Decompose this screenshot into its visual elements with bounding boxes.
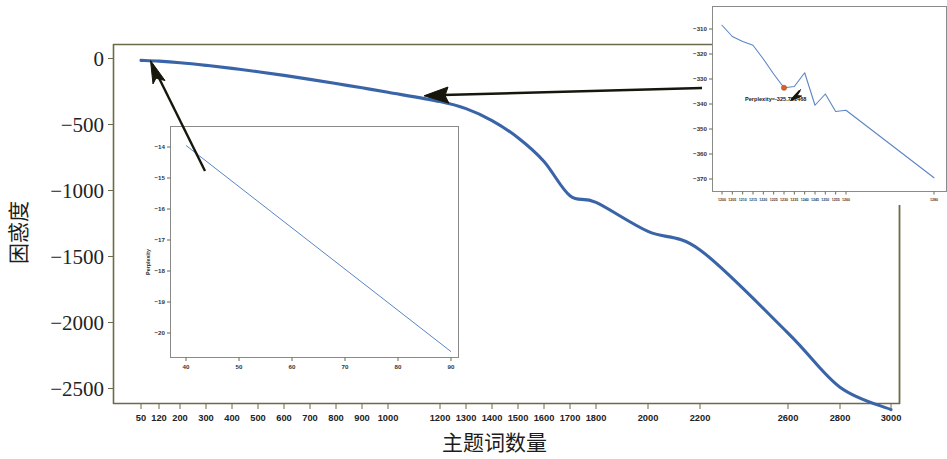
inset-right-y-tick-labels: −310 −320 −330 −340 −350 −360 −370 — [693, 25, 707, 182]
inset-ytick-label: −370 — [693, 175, 707, 182]
callout-arrow-right-icon — [424, 87, 702, 103]
xtick-label: 700 — [302, 413, 318, 423]
inset-left-frame — [171, 127, 459, 358]
y-axis-title: 困惑度 — [7, 201, 31, 264]
inset-right-annotation-marker — [781, 85, 786, 90]
main-x-tick-labels: 50 120 200 300 400 500 600 700 800 900 1… — [136, 413, 902, 423]
inset-xtick-label: 1280 — [930, 198, 938, 202]
xtick-label: 3000 — [881, 413, 902, 423]
xtick-label: 2800 — [830, 413, 851, 423]
perplexity-figure: 0 −500 −1000 −1500 −2000 −2500 困惑度 — [0, 0, 947, 459]
inset-xtick-label: 40 — [183, 363, 190, 370]
inset-right: −310 −320 −330 −340 −350 −360 −370 12001… — [693, 7, 946, 203]
xtick-label: 1500 — [508, 413, 529, 423]
main-y-tick-labels: 0 −500 −1000 −1500 −2000 −2500 — [50, 47, 104, 401]
inset-xtick-label: 1240 — [801, 198, 809, 202]
xtick-label: 200 — [172, 413, 188, 423]
xtick-label: 400 — [224, 413, 240, 423]
inset-ytick-label: −350 — [693, 125, 707, 132]
inset-left-x-tick-labels: 40 50 60 70 80 90 — [183, 363, 455, 370]
xtick-label: 1600 — [534, 413, 555, 423]
inset-ytick-label: −18 — [155, 267, 166, 274]
inset-right-y-ticks — [709, 29, 713, 179]
inset-ytick-label: −15 — [155, 174, 166, 181]
inset-ytick-label: −19 — [155, 298, 166, 305]
inset-xtick-label: 1260 — [842, 198, 850, 202]
xtick-label: 1200 — [430, 413, 451, 423]
inset-ytick-label: −360 — [693, 150, 707, 157]
main-y-ticks — [108, 59, 113, 389]
inset-left-y-tick-labels: −14 −15 −16 −17 −18 −19 −20 — [155, 143, 166, 336]
inset-ytick-label: −310 — [693, 25, 707, 32]
ytick-label: −1000 — [50, 179, 104, 203]
xtick-label: 2200 — [690, 413, 711, 423]
x-axis-title: 主题词数量 — [442, 431, 547, 455]
ytick-label: −2000 — [50, 311, 104, 335]
inset-xtick-label: 1205 — [728, 198, 736, 202]
inset-xtick-label: 1220 — [759, 198, 767, 202]
inset-left-y-axis-title: Perplexity — [145, 249, 151, 275]
xtick-label: 1000 — [378, 413, 399, 423]
inset-xtick-label: 1225 — [770, 198, 778, 202]
inset-xtick-label: 1235 — [790, 198, 798, 202]
ytick-label: −500 — [61, 113, 104, 137]
xtick-label: 500 — [250, 413, 266, 423]
inset-ytick-label: −16 — [155, 205, 166, 212]
inset-xtick-label: 1210 — [739, 198, 747, 202]
inset-left: −14 −15 −16 −17 −18 −19 −20 40 50 60 70 … — [145, 127, 459, 371]
xtick-label: 900 — [354, 413, 370, 423]
xtick-label: 1300 — [456, 413, 477, 423]
inset-left-y-ticks — [167, 147, 171, 333]
inset-right-x-tick-labels: 1200120512101215122012251230123512401245… — [718, 198, 938, 202]
xtick-label: 2600 — [778, 413, 799, 423]
ytick-label: 0 — [94, 47, 105, 71]
inset-xtick-label: 1215 — [749, 198, 757, 202]
inset-xtick-label: 1250 — [821, 198, 829, 202]
inset-xtick-label: 1200 — [718, 198, 726, 202]
inset-xtick-label: 1255 — [832, 198, 840, 202]
inset-xtick-label: 70 — [342, 363, 349, 370]
inset-ytick-label: −20 — [155, 329, 166, 336]
inset-xtick-label: 60 — [289, 363, 296, 370]
ytick-label: −1500 — [50, 245, 104, 269]
inset-ytick-label: −340 — [693, 100, 707, 107]
inset-xtick-label: 50 — [236, 363, 243, 370]
inset-ytick-label: −14 — [155, 143, 166, 150]
inset-ytick-label: −320 — [693, 50, 707, 57]
inset-xtick-label: 1230 — [780, 198, 788, 202]
inset-xtick-label: 80 — [395, 363, 402, 370]
inset-ytick-label: −17 — [155, 236, 166, 243]
inset-left-x-ticks — [186, 358, 451, 362]
inset-xtick-label: 1245 — [811, 198, 819, 202]
xtick-label: 800 — [328, 413, 344, 423]
xtick-label: 120 — [151, 413, 167, 423]
inset-ytick-label: −330 — [693, 75, 707, 82]
inset-xtick-label: 90 — [448, 363, 455, 370]
xtick-label: 600 — [276, 413, 292, 423]
figure-container: 0 −500 −1000 −1500 −2000 −2500 困惑度 — [0, 0, 947, 459]
xtick-label: 1400 — [482, 413, 503, 423]
xtick-label: 2000 — [638, 413, 659, 423]
xtick-label: 50 — [136, 413, 146, 423]
xtick-label: 1700 — [560, 413, 581, 423]
main-x-ticks — [141, 404, 891, 409]
xtick-label: 300 — [198, 413, 214, 423]
xtick-label: 1800 — [586, 413, 607, 423]
ytick-label: −2500 — [50, 377, 104, 401]
